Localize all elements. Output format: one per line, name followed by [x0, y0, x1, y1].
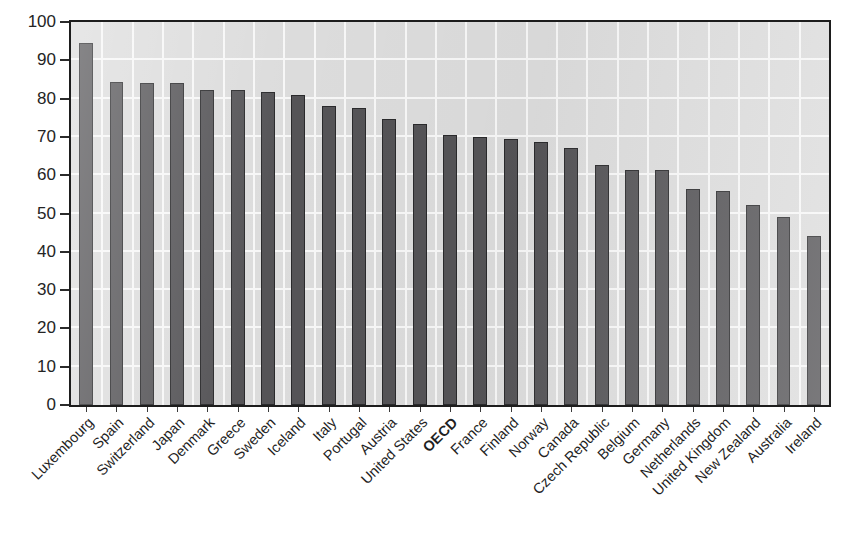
x-axis-tick-mark	[511, 407, 512, 412]
bar	[595, 165, 609, 405]
y-axis-tick-label: 70	[37, 128, 56, 145]
x-axis-tick-mark	[86, 407, 87, 412]
y-axis: 0102030405060708090100	[0, 0, 69, 427]
y-axis-tick-label: 40	[37, 243, 56, 260]
bar	[534, 142, 548, 405]
y-axis-tick-label: 80	[37, 90, 56, 107]
y-axis-tick-label: 90	[37, 51, 56, 68]
bar	[231, 90, 245, 405]
y-axis-tick-mark	[60, 59, 69, 61]
x-axis-tick-mark	[541, 407, 542, 412]
y-axis-tick-mark	[60, 136, 69, 138]
bar	[504, 139, 518, 405]
x-axis-tick-mark	[450, 407, 451, 412]
y-axis-tick-label: 20	[37, 319, 56, 336]
x-axis-tick-mark	[359, 407, 360, 412]
bar	[140, 83, 154, 405]
bar	[564, 148, 578, 405]
x-axis-tick-mark	[420, 407, 421, 412]
x-axis-tick-mark	[632, 407, 633, 412]
y-axis-tick-mark	[60, 251, 69, 253]
bar	[807, 236, 821, 405]
bar	[473, 137, 487, 405]
bar	[413, 124, 427, 405]
y-axis-tick-label: 30	[37, 281, 56, 298]
bar-chart-figure: 0102030405060708090100 LuxembourgSpainSw…	[0, 0, 853, 538]
x-axis-tick-mark	[571, 407, 572, 412]
y-axis-tick-label: 50	[37, 205, 56, 222]
x-axis-tick-mark	[329, 407, 330, 412]
bar	[322, 106, 336, 405]
x-axis-tick-mark	[238, 407, 239, 412]
bar-series	[71, 22, 829, 405]
x-axis-tick-mark	[723, 407, 724, 412]
bar	[352, 108, 366, 405]
x-axis-tick-mark	[693, 407, 694, 412]
x-axis-tick-mark	[389, 407, 390, 412]
x-axis-tick-mark	[602, 407, 603, 412]
bar	[79, 43, 93, 405]
bar	[200, 90, 214, 405]
x-axis-tick-mark	[268, 407, 269, 412]
y-axis-tick-mark	[60, 327, 69, 329]
x-axis-tick-mark	[207, 407, 208, 412]
bar	[382, 119, 396, 405]
bar	[625, 170, 639, 405]
bar	[686, 189, 700, 405]
y-axis-tick-label: 10	[37, 358, 56, 375]
bar	[261, 92, 275, 405]
bar	[291, 95, 305, 405]
x-axis-tick-mark	[116, 407, 117, 412]
y-axis-tick-mark	[60, 174, 69, 176]
bar	[746, 205, 760, 405]
bar	[170, 83, 184, 405]
x-axis-tick-mark	[147, 407, 148, 412]
bar	[777, 217, 791, 405]
y-axis-tick-mark	[60, 213, 69, 215]
bar	[110, 82, 124, 405]
y-axis-tick-mark	[60, 98, 69, 100]
y-axis-tick-mark	[60, 21, 69, 23]
x-axis-tick-mark	[784, 407, 785, 412]
bar	[443, 135, 457, 405]
x-axis: LuxembourgSpainSwitzerlandJapanDenmarkGr…	[0, 407, 853, 517]
x-axis-tick-mark	[480, 407, 481, 412]
y-axis-tick-mark	[60, 404, 69, 406]
y-axis-tick-label: 60	[37, 166, 56, 183]
plot-area	[69, 20, 831, 407]
y-axis-tick-label: 100	[28, 13, 56, 30]
x-axis-tick-mark	[753, 407, 754, 412]
x-axis-tick-mark	[662, 407, 663, 412]
bar	[655, 170, 669, 405]
bar	[716, 191, 730, 405]
y-axis-tick-mark	[60, 366, 69, 368]
x-axis-tick-mark	[177, 407, 178, 412]
x-axis-tick-mark	[298, 407, 299, 412]
x-axis-tick-mark	[814, 407, 815, 412]
y-axis-tick-mark	[60, 289, 69, 291]
